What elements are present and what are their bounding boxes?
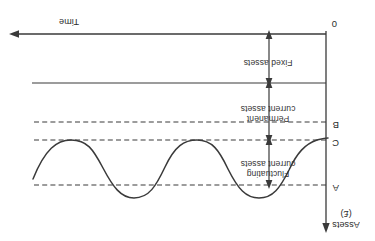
y-axis-units: (£) [325,209,367,218]
x-axis-label: Time [59,17,79,26]
time-axis [9,30,326,37]
origin-label: 0 [332,19,337,29]
rotated-figure-group: B C A 0 Time Assets (£) Fluctuating curr… [0,0,375,241]
level-marker-A: A [333,183,339,193]
band-label-fixed-assets: Fixed assets [223,58,313,67]
band-label-fluctuating-line2: current assets [223,159,313,168]
band-label-fluctuating-line1: Fluctuating [223,169,313,178]
assets-axis [322,31,329,233]
band-label-permanent-line1: Permanent [223,114,313,123]
diagram-canvas: B C A 0 Time Assets (£) Fluctuating curr… [0,0,375,241]
asset-structure-diagram [0,0,375,241]
y-axis-label: Assets [325,220,367,229]
level-marker-C: C [332,138,339,148]
level-marker-B: B [333,120,339,130]
band-label-permanent-line2: current assets [223,104,313,113]
